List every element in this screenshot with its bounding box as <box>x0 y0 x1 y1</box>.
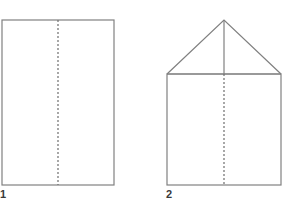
figure-canvas: 1 2 <box>0 0 284 216</box>
geometry-drawing <box>0 0 284 216</box>
figure-2-group <box>167 20 281 185</box>
figure-1-label: 1 <box>0 189 6 200</box>
figure-1-group <box>2 20 114 185</box>
figure-2-label: 2 <box>166 189 172 200</box>
